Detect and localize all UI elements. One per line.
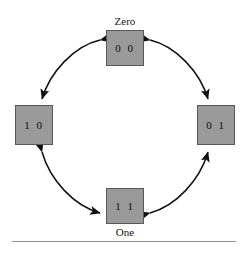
- state-box-one[interactable]: 1 1: [106, 188, 144, 224]
- state-box-zero[interactable]: 0 0: [106, 30, 144, 66]
- state-diagram-figure: 1 0 --> 0 1 --> 1 1 --> 0 1 --> Zero 0 0…: [0, 0, 249, 253]
- transition-arc-zero-ohone: [150, 40, 208, 99]
- state-value-zero: 0 0: [115, 43, 135, 54]
- state-outer-label-zero: Zero: [106, 15, 144, 27]
- state-box-oh-one[interactable]: 0 1: [197, 105, 235, 145]
- baseline-divider: [12, 241, 236, 242]
- transition-arc-zero-ten: [42, 40, 100, 99]
- transition-arc-one-ohone: [150, 152, 208, 213]
- state-value-oh-one: 0 1: [206, 120, 226, 131]
- transition-arc-ten-one: [42, 152, 100, 213]
- state-value-ten: 1 0: [24, 120, 44, 131]
- state-outer-label-one: One: [106, 226, 144, 238]
- state-box-ten[interactable]: 1 0: [15, 105, 53, 145]
- state-value-one: 1 1: [115, 201, 135, 212]
